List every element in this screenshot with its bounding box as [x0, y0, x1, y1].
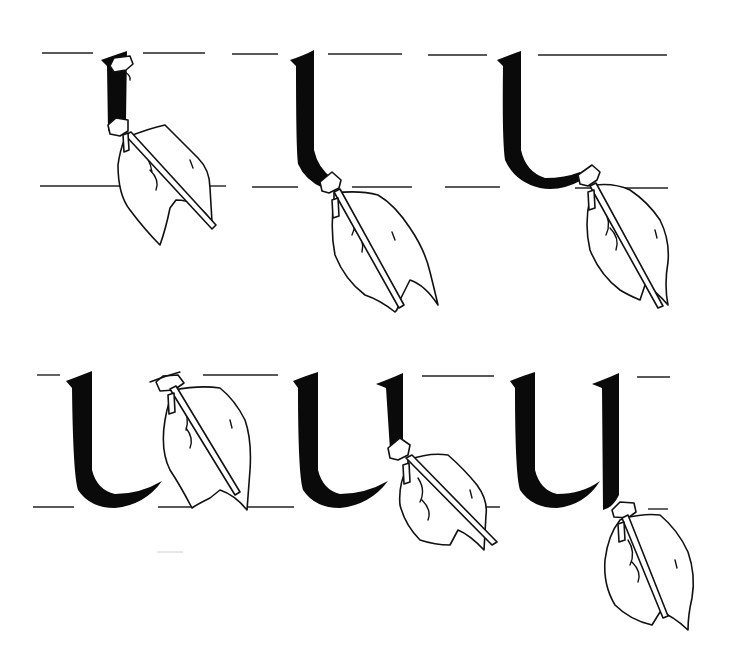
panel-3-bowl-stroke	[497, 51, 668, 308]
panel-4-pen-lift	[66, 371, 250, 510]
pen-nib-ghost-icon	[110, 56, 133, 72]
calligraphy-illustration	[0, 0, 732, 654]
ink-stroke	[66, 371, 162, 508]
ink-stroke	[293, 372, 388, 508]
ink-stroke-second	[592, 373, 619, 510]
ink-stroke	[510, 372, 600, 508]
ink-stroke	[290, 50, 332, 188]
guide-lines-row-2	[33, 375, 670, 552]
panel-5-second-stem	[293, 372, 497, 550]
panel-1-first-stroke	[101, 51, 216, 245]
panel-6-letter-complete	[510, 372, 693, 630]
panel-2-stem-curve	[290, 50, 438, 312]
hand-icon	[400, 454, 487, 550]
ink-stroke	[497, 51, 582, 189]
illustration-canvas	[0, 0, 732, 654]
